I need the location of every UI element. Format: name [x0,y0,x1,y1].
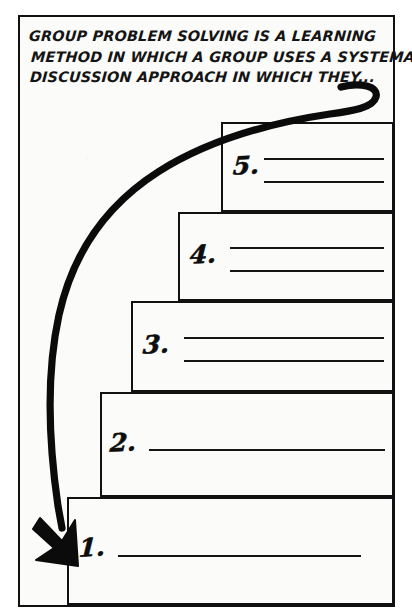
step-5-answer-line-1[interactable] [264,158,384,160]
step-3-answer-line-2[interactable] [184,360,384,362]
step-4-answer-line-2[interactable] [230,270,384,272]
step-1-answer-line-1[interactable] [118,555,361,557]
step-1[interactable]: 1. [67,497,394,605]
step-5-number: 5. [232,150,260,180]
step-3-number: 3. [142,329,170,359]
prompt-line-2: METHOD IN WHICH A GROUP USES A SYSTEMATI… [30,47,379,68]
step-4-number: 4. [189,239,217,269]
step-4[interactable]: 4. [178,212,394,301]
step-3-answer-line-1[interactable] [184,337,384,339]
step-5[interactable]: 5. [221,122,394,212]
prompt-line-3: DISCUSSION APPROACH IN WHICH THEY... [29,67,379,88]
worksheet-canvas: GROUP PROBLEM SOLVING IS A LEARNING METH… [0,0,412,614]
step-2-answer-line-1[interactable] [149,449,385,451]
step-2[interactable]: 2. [100,392,394,497]
step-2-number: 2. [109,427,137,457]
step-4-answer-line-1[interactable] [230,247,384,249]
prompt-line-1: GROUP PROBLEM SOLVING IS A LEARNING [28,26,379,47]
step-3[interactable]: 3. [131,301,394,392]
step-1-number: 1. [78,532,106,562]
prompt-text-block: GROUP PROBLEM SOLVING IS A LEARNING METH… [29,26,379,88]
step-5-answer-line-2[interactable] [264,181,384,183]
